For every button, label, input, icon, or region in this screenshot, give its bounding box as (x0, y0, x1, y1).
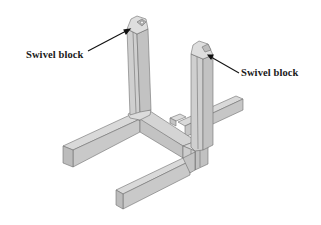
left-post (127, 24, 151, 115)
swivel-block-label-left: Swivel block (26, 49, 84, 60)
left-leader-line (88, 30, 128, 51)
left-fork-arm (63, 115, 140, 167)
right-post (191, 50, 213, 151)
right-fork-arm (116, 152, 195, 209)
right-leader-line (211, 57, 239, 73)
diagram-canvas: Swivel block Swivel block (0, 0, 321, 225)
fixture-drawing (0, 0, 321, 225)
swivel-block-label-right: Swivel block (241, 67, 299, 78)
